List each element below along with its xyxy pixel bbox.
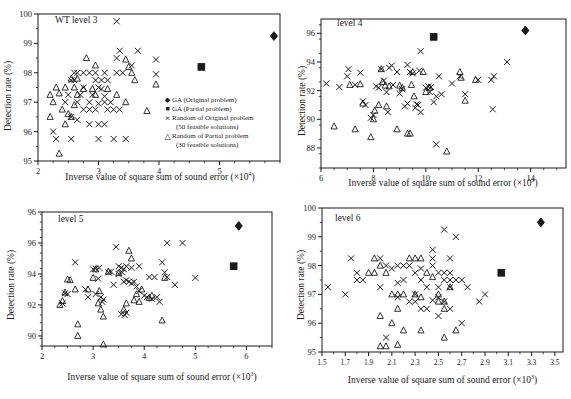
legend: ◆ GA (Original problem) ■ GA (Partial pr…: [163, 96, 253, 150]
x-axis-label-close: ): [252, 172, 255, 182]
y-axis-label: Detection rate (%): [297, 66, 307, 136]
scatter-figure-grid: 23459596979899100 WT level 3 Detection r…: [0, 0, 571, 399]
legend-label-line2: (30 feasible solutions): [176, 141, 253, 150]
svg-text:4: 4: [142, 351, 147, 361]
svg-text:96: 96: [308, 318, 317, 328]
svg-text:5: 5: [193, 351, 197, 361]
scatter-plot-level-6: 1.51.71.92.12.32.52.72.93.13.33.59596979…: [285, 200, 571, 399]
svg-text:90: 90: [307, 114, 316, 124]
svg-text:94: 94: [28, 269, 37, 279]
scatter-plot-level-4: 681012148890929496: [285, 0, 571, 200]
subplot-level-4: 681012148890929496 level 4 Detection rat…: [285, 0, 571, 200]
svg-text:1.9: 1.9: [364, 358, 374, 367]
subplot-level-6: 1.51.71.92.12.32.52.72.93.13.33.59596979…: [285, 200, 571, 399]
svg-text:99: 99: [24, 38, 33, 48]
svg-text:2.5: 2.5: [434, 358, 444, 367]
svg-text:1.7: 1.7: [341, 358, 351, 367]
y-axis-label: Detection rate (%): [296, 250, 306, 320]
legend-label-line2: (50 feasible solutions): [176, 123, 253, 132]
svg-text:2: 2: [40, 351, 44, 361]
svg-text:97: 97: [24, 97, 33, 107]
svg-text:2.1: 2.1: [387, 358, 397, 367]
svg-text:3.3: 3.3: [527, 358, 537, 367]
svg-text:95: 95: [24, 156, 33, 166]
svg-text:6: 6: [244, 351, 248, 361]
x-axis-label-text: Inverse value of square sum of sound err…: [65, 172, 248, 182]
svg-text:100: 100: [303, 203, 316, 213]
plot-title: level 4: [337, 18, 363, 28]
svg-text:3.1: 3.1: [504, 358, 514, 367]
x-cross-icon: ×: [163, 114, 172, 123]
legend-item-random-partial: △ Random of Partial problem: [163, 132, 253, 141]
legend-item-ga-original: ◆ GA (Original problem): [163, 96, 253, 105]
subplot-level-5: 234569696949290 level 5 Detection rate (…: [0, 200, 285, 399]
svg-text:92: 92: [307, 86, 316, 96]
svg-text:100: 100: [19, 9, 32, 19]
svg-text:95: 95: [308, 347, 317, 357]
plot-title: WT level 3: [55, 15, 98, 25]
svg-text:99: 99: [308, 232, 317, 242]
plot-title: level 6: [335, 213, 361, 223]
svg-text:94: 94: [307, 57, 316, 67]
diamond-filled-icon: ◆: [163, 96, 172, 105]
subplot-wt-level-3: 23459596979899100 WT level 3 Detection r…: [0, 0, 285, 200]
legend-item-ga-partial: ■ GA (Partial problem): [163, 105, 253, 114]
x-axis-label: Inverse value of square sum of sound err…: [318, 178, 568, 188]
svg-text:90: 90: [28, 331, 37, 341]
x-axis-label-close: ): [534, 375, 537, 385]
svg-text:2.9: 2.9: [480, 358, 490, 367]
svg-text:2.3: 2.3: [410, 358, 420, 367]
svg-text:3.5: 3.5: [550, 358, 560, 367]
plot-title: level 5: [58, 214, 84, 224]
x-axis-label-close: ): [535, 178, 538, 188]
svg-text:98: 98: [24, 68, 33, 78]
x-axis-label: Inverse value of square sum of sound err…: [30, 172, 290, 182]
svg-text:1.5: 1.5: [317, 358, 327, 367]
svg-text:88: 88: [307, 143, 316, 153]
svg-text:98: 98: [308, 261, 317, 271]
x-axis-label-text: Inverse value of square sum of sound err…: [348, 375, 531, 385]
svg-text:92: 92: [28, 300, 37, 310]
legend-label: Random of Partial problem: [172, 132, 248, 141]
y-axis-label: Detection rate (%): [6, 250, 16, 320]
svg-text:96: 96: [24, 127, 33, 137]
legend-item-random-original: × Random of Original problem: [163, 114, 253, 123]
svg-text:3: 3: [91, 351, 95, 361]
x-axis-label: Inverse value of square sum of sound err…: [320, 375, 565, 385]
svg-text:2.7: 2.7: [457, 358, 467, 367]
y-axis-label: Detection rate (%): [3, 61, 13, 131]
svg-text:96: 96: [28, 238, 37, 248]
x-axis-label: Inverse value of square sum of sound err…: [32, 372, 292, 382]
scatter-plot-level-5: 234569696949290: [0, 200, 285, 399]
svg-text:96: 96: [28, 207, 37, 217]
x-axis-label-text: Inverse value of square sum of sound err…: [348, 178, 531, 188]
legend-label: GA (Partial problem): [172, 105, 232, 114]
x-axis-label-text: Inverse value of square sum of sound err…: [67, 372, 250, 382]
x-axis-label-close: ): [254, 372, 257, 382]
triangle-open-icon: △: [163, 132, 172, 141]
legend-label: GA (Original problem): [172, 96, 237, 105]
legend-label: Random of Original problem: [172, 114, 253, 123]
svg-text:96: 96: [307, 28, 316, 38]
svg-text:97: 97: [308, 289, 317, 299]
